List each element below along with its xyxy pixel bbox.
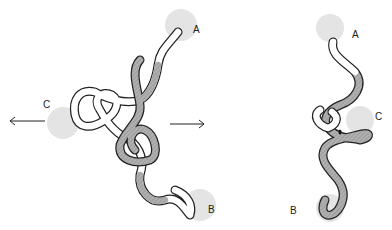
label-c-right: C <box>375 111 382 122</box>
label-b-left: B <box>208 204 215 215</box>
label-a-right: A <box>352 29 359 40</box>
label-a-left: A <box>193 24 200 35</box>
label-b-right: B <box>290 205 297 216</box>
protein-diagram: A C B A C B <box>0 0 392 230</box>
site-c-highlight <box>346 106 374 134</box>
arrow-right-icon <box>170 120 204 128</box>
arrow-left-icon <box>10 117 45 125</box>
active-site-marker <box>339 130 342 135</box>
left-view <box>10 9 216 221</box>
label-c-left: C <box>43 99 50 110</box>
right-view <box>316 14 374 222</box>
site-a-highlight <box>316 14 344 42</box>
